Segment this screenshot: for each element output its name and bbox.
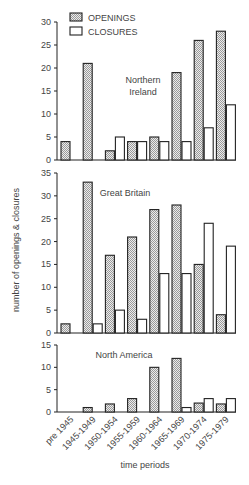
panel-title: Great Britain <box>100 188 151 198</box>
bar-closures <box>226 246 235 333</box>
panel-title: Northern <box>125 75 160 85</box>
bar-closures <box>115 310 124 333</box>
bar-openings <box>150 210 159 333</box>
y-tick-label: 5 <box>46 385 51 395</box>
legend-openings-swatch <box>70 13 82 21</box>
bar-closures <box>204 399 213 412</box>
bar-openings <box>83 408 92 412</box>
bar-closures <box>93 324 102 333</box>
y-tick-label: 25 <box>41 214 51 224</box>
y-tick-label: 15 <box>41 259 51 269</box>
bar-openings <box>105 255 114 333</box>
bar-openings <box>83 182 92 333</box>
bar-openings <box>194 403 203 412</box>
legend: OPENINGS CLOSURES <box>70 13 138 37</box>
bar-closures <box>182 142 191 160</box>
y-tick-label: 10 <box>41 109 51 119</box>
bar-closures <box>226 399 235 412</box>
y-tick-label: 10 <box>41 282 51 292</box>
bar-openings <box>172 73 181 160</box>
bar-openings <box>150 137 159 160</box>
bar-openings <box>128 142 137 160</box>
bar-closures <box>204 128 213 160</box>
y-tick-label: 25 <box>41 40 51 50</box>
bar-chart: 051015202530NorthernIreland0510152025303… <box>0 0 249 485</box>
panel-northern-ireland: 051015202530NorthernIreland <box>41 17 236 165</box>
y-tick-label: 15 <box>41 86 51 96</box>
bar-closures <box>182 274 191 333</box>
legend-openings-label: OPENINGS <box>88 13 136 23</box>
y-tick-label: 0 <box>46 328 51 338</box>
y-tick-label: 30 <box>41 17 51 27</box>
bar-openings <box>128 237 137 333</box>
bar-closures <box>226 105 235 160</box>
panel-title: North America <box>95 350 152 360</box>
y-tick-label: 5 <box>46 305 51 315</box>
bar-openings <box>216 404 225 412</box>
bar-openings <box>216 315 225 333</box>
bar-openings <box>61 324 70 333</box>
bar-openings <box>105 404 114 412</box>
bar-closures <box>204 223 213 333</box>
bar-closures <box>138 142 147 160</box>
y-tick-label: 15 <box>41 340 51 350</box>
x-tick-labels: pre 19451945-19491950-19541955-19591960-… <box>43 414 231 452</box>
bar-openings <box>128 399 137 412</box>
bar-openings <box>172 358 181 412</box>
y-tick-label: 35 <box>41 168 51 178</box>
y-tick-label: 20 <box>41 63 51 73</box>
bar-openings <box>83 63 92 160</box>
panel-north-america: 051015North America <box>41 340 236 417</box>
y-axis-label: number of openings & closures <box>11 187 21 312</box>
panel-title-line2: Ireland <box>129 87 157 97</box>
x-axis-label: time periods <box>120 460 170 470</box>
bar-closures <box>160 142 169 160</box>
bar-openings <box>150 367 159 412</box>
y-tick-label: 0 <box>46 155 51 165</box>
y-tick-label: 20 <box>41 237 51 247</box>
bar-openings <box>172 205 181 333</box>
bar-openings <box>216 31 225 160</box>
bar-openings <box>194 264 203 333</box>
y-tick-label: 5 <box>46 132 51 142</box>
bar-closures <box>115 137 124 160</box>
legend-closures-label: CLOSURES <box>88 27 138 37</box>
bar-openings <box>105 151 114 160</box>
y-tick-label: 30 <box>41 191 51 201</box>
bar-closures <box>138 319 147 333</box>
y-tick-label: 0 <box>46 407 51 417</box>
panel-great-britain: 05101520253035Great Britain <box>41 168 236 338</box>
bar-closures <box>182 408 191 412</box>
bar-openings <box>194 40 203 160</box>
y-tick-label: 10 <box>41 362 51 372</box>
legend-closures-swatch <box>70 27 82 35</box>
bar-closures <box>160 274 169 333</box>
bar-openings <box>61 142 70 160</box>
